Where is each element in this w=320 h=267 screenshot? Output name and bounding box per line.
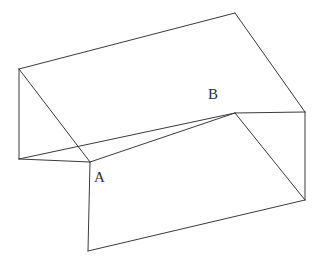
box-wireframe-svg [0, 0, 320, 267]
edge-bottom-front [88, 200, 305, 251]
edge-top-right-rear [235, 13, 305, 112]
vertex-label-a: A [94, 170, 105, 185]
edge-right-wall-diagonal-b [235, 113, 305, 200]
edge-front-vertical-a [88, 162, 90, 251]
box-diagram-figure: A B [0, 0, 320, 267]
edge-inner-rim-right [235, 112, 305, 113]
edge-inner-rim-back [19, 113, 235, 159]
vertex-label-b: B [208, 87, 218, 102]
edge-inner-rim-front [90, 113, 235, 162]
edge-top-back [19, 13, 235, 69]
edge-top-front-left [19, 159, 90, 162]
edge-inner-wall-left-diagonal [19, 69, 90, 162]
